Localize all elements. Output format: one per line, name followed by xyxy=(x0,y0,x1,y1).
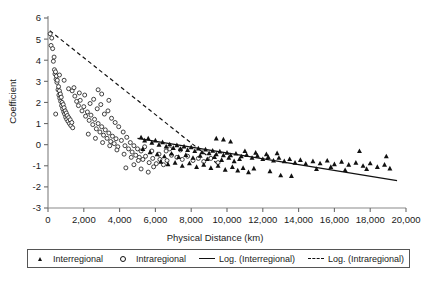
data-point xyxy=(382,162,387,167)
data-point xyxy=(103,128,107,132)
filled-triangle-icon xyxy=(33,254,49,264)
data-point xyxy=(219,157,224,162)
legend-item-log-intraregional: Log. (Intraregional) xyxy=(308,254,404,264)
data-point xyxy=(59,95,63,99)
data-point xyxy=(146,136,151,141)
data-point xyxy=(253,150,258,155)
data-point xyxy=(242,148,247,153)
data-point xyxy=(353,160,358,165)
data-point xyxy=(157,142,162,147)
data-point xyxy=(48,32,52,36)
axes-group xyxy=(44,16,406,212)
data-point xyxy=(357,148,362,153)
data-point xyxy=(62,78,66,82)
legend-item-intraregional: Intraregional xyxy=(116,254,186,264)
data-point xyxy=(84,114,88,118)
x-tick-label: 6,000 xyxy=(144,214,168,225)
data-point xyxy=(139,135,144,140)
data-point xyxy=(264,152,269,157)
data-point xyxy=(180,157,184,161)
data-point xyxy=(233,151,238,156)
legend-label-interregional: Interregional xyxy=(53,254,103,264)
y-tick-label: 4 xyxy=(36,55,41,66)
data-point xyxy=(139,167,143,171)
data-point xyxy=(132,163,136,167)
data-point xyxy=(343,167,348,172)
data-point xyxy=(57,73,61,77)
data-point xyxy=(86,132,90,136)
data-point xyxy=(114,137,118,141)
data-point xyxy=(100,92,104,96)
data-point xyxy=(77,91,81,95)
data-point xyxy=(100,125,104,129)
data-point xyxy=(293,160,298,165)
data-point xyxy=(246,170,251,175)
data-point xyxy=(298,157,303,162)
data-point xyxy=(209,156,213,160)
data-point xyxy=(54,70,58,74)
data-point xyxy=(50,36,54,40)
data-point xyxy=(105,136,109,140)
y-tick-label: 6 xyxy=(36,12,41,23)
data-point xyxy=(117,125,121,129)
chart-legend: Interregional Intraregional Log. (Interr… xyxy=(27,249,410,268)
data-point xyxy=(241,165,246,170)
data-point xyxy=(230,164,235,169)
data-point xyxy=(328,164,333,169)
data-point xyxy=(147,161,151,165)
x-tick-label: 20,000 xyxy=(391,214,420,225)
data-point xyxy=(368,161,373,166)
data-point xyxy=(136,159,140,163)
data-point xyxy=(91,123,95,127)
data-point xyxy=(278,173,283,178)
data-point xyxy=(70,121,74,125)
data-point xyxy=(361,163,366,168)
data-point xyxy=(96,122,100,126)
y-tick-label: -1 xyxy=(33,160,41,171)
data-point xyxy=(52,55,56,59)
data-point xyxy=(208,165,213,170)
legend-item-interregional: Interregional xyxy=(33,254,103,264)
data-point xyxy=(101,133,105,137)
data-point xyxy=(102,112,106,116)
y-tick-label: -3 xyxy=(33,202,41,213)
data-point xyxy=(276,155,281,160)
x-tick-label: 14,000 xyxy=(284,214,313,225)
data-point xyxy=(122,152,126,156)
y-axis-label: Coefficient xyxy=(7,67,18,137)
data-point xyxy=(51,47,55,51)
data-point xyxy=(113,121,117,125)
data-point xyxy=(57,85,61,89)
data-point xyxy=(93,117,97,121)
data-point xyxy=(144,154,148,158)
legend-item-log-interregional: Log. (Interregional) xyxy=(199,254,295,264)
data-point xyxy=(332,161,337,166)
data-point xyxy=(108,144,112,148)
data-point xyxy=(125,135,129,139)
x-tick-label: 2,000 xyxy=(72,214,96,225)
data-point xyxy=(318,161,323,166)
data-point xyxy=(310,159,315,164)
legend-label-log-interregional: Log. (Interregional) xyxy=(219,254,295,264)
data-point xyxy=(267,168,272,173)
data-point xyxy=(93,136,97,140)
data-point xyxy=(194,164,199,169)
data-point xyxy=(107,131,111,135)
solid-line-icon xyxy=(199,254,215,264)
data-point xyxy=(387,166,392,171)
data-point xyxy=(173,160,178,165)
y-tick-label: 0 xyxy=(36,139,41,150)
data-point xyxy=(303,161,308,166)
data-point xyxy=(112,142,116,146)
data-point xyxy=(128,141,132,145)
data-point xyxy=(127,147,131,151)
data-point xyxy=(119,138,123,142)
data-point xyxy=(110,116,114,120)
data-point xyxy=(180,163,185,168)
data-point xyxy=(223,167,228,172)
data-point xyxy=(115,148,119,152)
data-point xyxy=(123,144,127,148)
x-tick-label: 18,000 xyxy=(356,214,385,225)
x-tick-label: 12,000 xyxy=(248,214,277,225)
data-point xyxy=(73,94,77,98)
